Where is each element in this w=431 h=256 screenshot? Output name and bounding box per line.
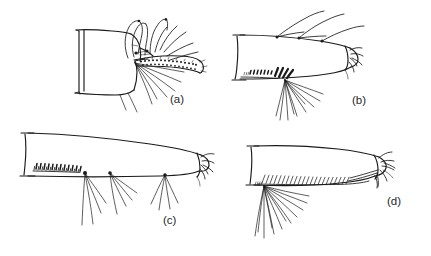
- panel-label-c: (c): [163, 214, 177, 226]
- panel-b-pecten: [250, 70, 272, 74]
- panel-c-drawing: [20, 133, 214, 225]
- figure-drawing: (a) (b) (c) (d): [0, 0, 431, 256]
- panel-label-b: (b): [352, 94, 366, 106]
- panel-b-hair-fan: [276, 80, 323, 120]
- panel-b-pecten-long: [275, 68, 293, 78]
- panel-label-a: (a): [170, 93, 184, 105]
- panel-d-hair-fan: [255, 186, 309, 238]
- panel-b-pecten-fine: [244, 72, 249, 75]
- panel-b-drawing: [232, 11, 364, 120]
- figure-container: (a) (b) (c) (d): [0, 0, 431, 256]
- panel-c-hair-tuft-3: [151, 175, 178, 210]
- panel-label-d: (d): [387, 195, 401, 207]
- panel-a-drawing: [75, 18, 207, 112]
- panel-c-hair-tuft-2: [110, 173, 137, 214]
- panel-c-hair-tuft-1: [82, 173, 106, 225]
- panel-d-drawing: [246, 146, 395, 238]
